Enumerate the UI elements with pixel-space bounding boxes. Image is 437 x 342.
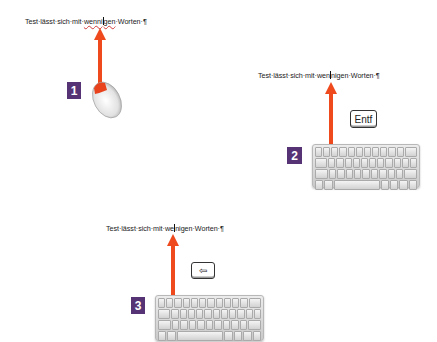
backspace-key-icon: ⇦ xyxy=(191,262,215,279)
delete-key-icon: Entf xyxy=(350,110,377,128)
text-after: ·Worten·¶ xyxy=(115,17,146,26)
text-line-step-3: Test·lässt·sich·mit·wenigen·Worten·¶ xyxy=(106,224,224,233)
misspelled-part-2: gen xyxy=(104,17,116,26)
text-before: Test·lässt·sich·mit·wen xyxy=(258,71,330,80)
text-line-step-2: Test·lässt·sich·mit·wennigen·Worten·¶ xyxy=(258,71,380,80)
step-badge-3: 3 xyxy=(131,297,145,314)
arrow-up-icon xyxy=(329,92,333,144)
keyboard-icon xyxy=(312,144,420,188)
keyboard-icon xyxy=(155,295,264,341)
text-line-step-1: Test·lässt·sich·mit·wennigen·Worten·¶ xyxy=(25,17,147,26)
misspelled-part-1: wenni xyxy=(84,17,103,26)
text-before: Test·lässt·sich·mit·we xyxy=(106,224,174,233)
misspelled-word: wennigen xyxy=(84,17,116,26)
arrow-up-icon xyxy=(171,244,175,296)
mouse-icon xyxy=(88,78,128,122)
step-badge-2: 2 xyxy=(287,147,302,164)
text-before: Test·lässt·sich·mit· xyxy=(25,17,84,26)
text-after: nigen·Worten·¶ xyxy=(175,224,224,233)
step-badge-1: 1 xyxy=(67,82,81,99)
text-after: nigen·Worten·¶ xyxy=(331,71,380,80)
